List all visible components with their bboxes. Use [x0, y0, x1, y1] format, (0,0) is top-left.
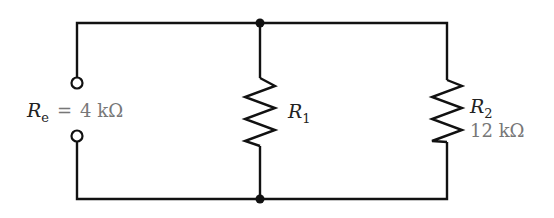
wire-bottom-right [260, 142, 447, 199]
terminal-bottom [72, 131, 83, 142]
resistor-r1-label: R1 [287, 100, 311, 126]
wire-left-top [77, 23, 260, 77]
resistor-r2-value: 12 kΩ [470, 120, 524, 141]
resistor-r2-label: R2 [469, 95, 493, 121]
wire-left-bottom [77, 142, 260, 199]
wire-top-right [260, 23, 447, 80]
junction-top [256, 19, 265, 28]
equivalent-resistance-label: Re=4 kΩ [26, 99, 123, 125]
junction-bottom [256, 195, 265, 204]
circuit-diagram: Re=4 kΩ R1 R2 12 kΩ [0, 0, 554, 218]
resistor-r1-zigzag [245, 78, 275, 146]
resistor-r2-zigzag [432, 80, 462, 142]
terminal-top [72, 78, 83, 89]
